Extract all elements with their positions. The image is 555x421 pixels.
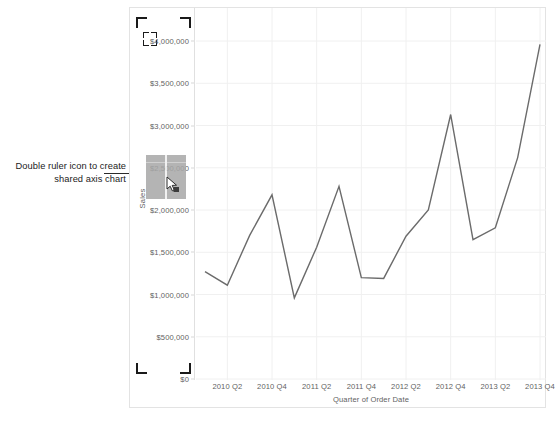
x-tick-label: 2010 Q2 xyxy=(212,382,242,391)
x-tick-label: 2011 Q4 xyxy=(347,382,376,391)
selection-handle-top-right[interactable] xyxy=(180,17,191,28)
x-tick-label: 2013 Q4 xyxy=(525,382,555,391)
y-tick-label: $4,000,000 xyxy=(150,37,189,46)
y-tick-label: $1,000,000 xyxy=(150,290,189,299)
vertical-gridlines xyxy=(227,8,540,380)
y-tick-mark xyxy=(191,336,194,337)
y-tick-mark xyxy=(191,210,194,211)
selection-handle-bottom-right[interactable] xyxy=(180,363,191,374)
y-tick-mark xyxy=(191,41,194,42)
x-tick-label: 2012 Q4 xyxy=(436,382,466,391)
y-tick-mark xyxy=(191,379,194,380)
y-tick-label: $500,000 xyxy=(157,332,189,341)
plot-area[interactable] xyxy=(196,8,546,380)
y-tick-mark xyxy=(191,252,194,253)
y-tick-label: $0 xyxy=(180,375,189,384)
x-axis: 2010 Q22010 Q42011 Q22011 Q42012 Q22012 … xyxy=(196,380,546,408)
sales-line-series xyxy=(205,44,540,298)
cursor-pointer-icon xyxy=(166,176,180,193)
y-tick-mark xyxy=(191,167,194,168)
visualization-frame: $0$500,000$1,000,000$1,500,000$2,000,000… xyxy=(129,7,546,408)
y-axis-panel[interactable]: $0$500,000$1,000,000$1,500,000$2,000,000… xyxy=(130,8,195,380)
y-tick-label: $3,000,000 xyxy=(150,121,189,130)
selection-handle-top-left[interactable] xyxy=(136,17,147,28)
y-tick-label: $1,500,000 xyxy=(150,248,189,257)
horizontal-gridlines xyxy=(196,41,546,379)
y-tick-mark xyxy=(191,125,194,126)
selection-handle-bottom-left[interactable] xyxy=(136,363,147,374)
line-chart-svg xyxy=(196,8,546,380)
x-axis-title: Quarter of Order Date xyxy=(196,395,546,404)
x-tick-label: 2012 Q2 xyxy=(391,382,421,391)
x-tick-label: 2011 Q2 xyxy=(302,382,331,391)
y-tick-label: $2,000,000 xyxy=(150,206,189,215)
y-tick-mark xyxy=(191,294,194,295)
y-tick-mark xyxy=(191,83,194,84)
y-tick-label: $3,500,000 xyxy=(150,79,189,88)
x-tick-label: 2010 Q4 xyxy=(257,382,287,391)
x-tick-label: 2013 Q2 xyxy=(480,382,510,391)
